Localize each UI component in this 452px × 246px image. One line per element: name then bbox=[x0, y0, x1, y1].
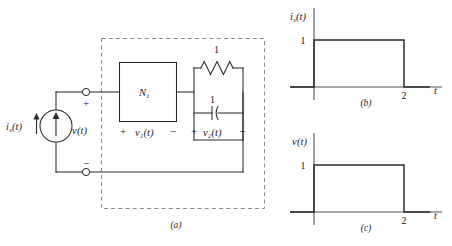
port-voltage-label-arg: (t) bbox=[77, 125, 87, 137]
graph-b-y-axis-label: is(t) bbox=[290, 11, 306, 23]
graph-c-pulse-trace bbox=[290, 165, 430, 212]
port-terminal-bottom bbox=[82, 168, 89, 175]
v2-plus-sign: + bbox=[191, 125, 197, 137]
caption-part-c: (c) bbox=[361, 223, 372, 234]
source-label: is(t) bbox=[6, 121, 22, 133]
port-voltage-label: v(t) bbox=[72, 125, 87, 137]
graph-b-ytick-1: 1 bbox=[301, 35, 306, 46]
graph-b-y-axis-label-arg: (t) bbox=[296, 11, 306, 23]
figure-svg: is(t) + − v(t) N1 bbox=[0, 0, 452, 246]
graph-c-ytick-1: 1 bbox=[301, 160, 306, 171]
chart-part-c: 1 2 t v(t) (c) bbox=[290, 133, 442, 234]
source-direction-arrow bbox=[33, 113, 39, 134]
graph-c-xtick-2: 2 bbox=[402, 215, 407, 226]
v1-plus-sign: + bbox=[120, 125, 126, 137]
resistor-value-label: 1 bbox=[214, 44, 219, 55]
graph-b-xtick-2: 2 bbox=[402, 90, 407, 101]
port-terminal-top bbox=[82, 88, 89, 95]
v1-label: v1(t) bbox=[135, 127, 154, 139]
port-plus-sign: + bbox=[83, 97, 89, 109]
v1-label-arg: (t) bbox=[144, 127, 154, 139]
rc-parallel-network: 1 1 bbox=[194, 44, 243, 172]
chart-part-b: 1 2 t is(t) (b) bbox=[290, 8, 442, 109]
graph-c-y-axis-label-arg: (t) bbox=[297, 136, 307, 148]
v2-minus-sign: − bbox=[239, 125, 245, 137]
v2-label: v2(t) bbox=[203, 127, 222, 139]
svg-text:is(t): is(t) bbox=[6, 121, 22, 133]
source-label-arg: (t) bbox=[12, 121, 22, 133]
v1-minus-sign: − bbox=[170, 125, 176, 137]
n1-label-sub: 1 bbox=[146, 92, 149, 99]
capacitor-branch: 1 bbox=[194, 94, 243, 120]
port-minus-sign: − bbox=[83, 157, 89, 169]
caption-part-a: (a) bbox=[170, 220, 181, 231]
caption-part-b: (b) bbox=[360, 98, 371, 109]
resistor-zigzag bbox=[201, 62, 233, 75]
graph-b-pulse-trace bbox=[290, 40, 430, 87]
current-source-symbol bbox=[40, 110, 72, 142]
graph-c-y-axis-label: v(t) bbox=[292, 136, 307, 148]
v2-label-arg: (t) bbox=[212, 127, 222, 139]
capacitor-value-label: 1 bbox=[210, 94, 215, 105]
circuit-part-a: is(t) + − v(t) N1 bbox=[6, 39, 265, 232]
figure-root: is(t) + − v(t) N1 bbox=[0, 0, 452, 246]
source-arrow-head bbox=[33, 113, 39, 120]
resistor-branch: 1 bbox=[194, 44, 243, 75]
network-block-n1: N1 bbox=[120, 63, 177, 122]
